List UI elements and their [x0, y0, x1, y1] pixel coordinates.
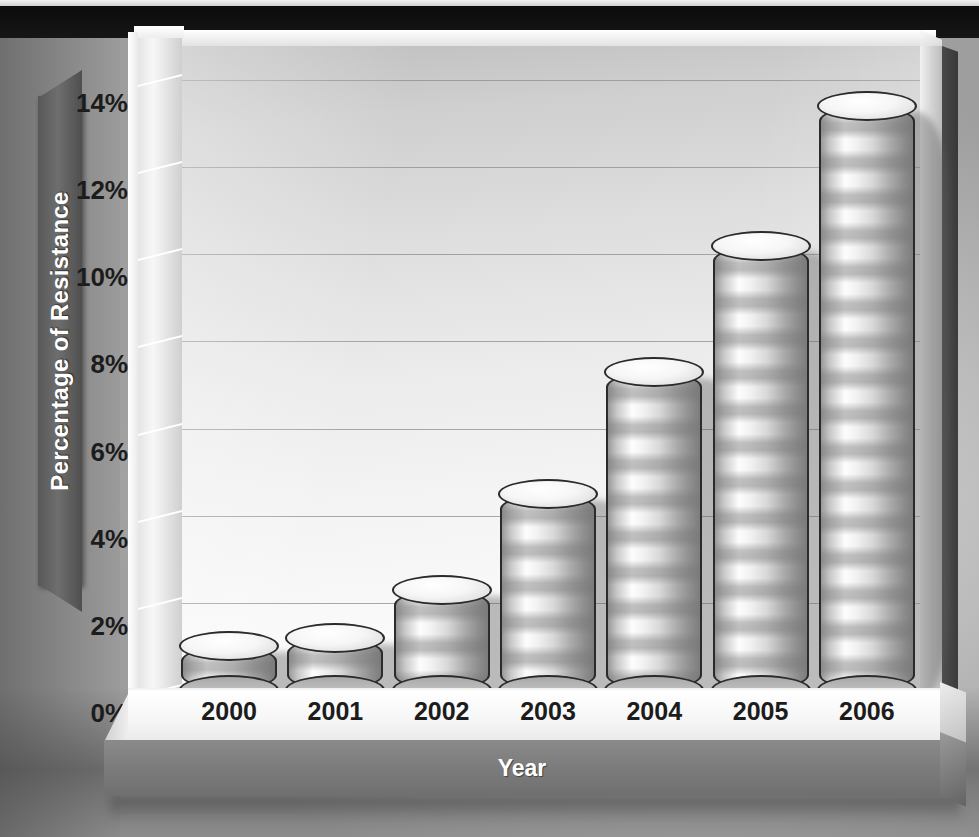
bar-2004[interactable]: [606, 372, 702, 690]
bar-cylinder-cap: [498, 479, 598, 509]
bar-cylinder-cap: [392, 575, 492, 605]
bar-2005[interactable]: [713, 246, 809, 690]
x-axis-tick-label: 2002: [387, 697, 497, 726]
x-axis-tick-label: 2000: [174, 697, 284, 726]
x-axis-tick-labels: 2000200120022003200420052006: [176, 697, 936, 741]
x-axis-tick-label: 2003: [493, 697, 603, 726]
bar-2000[interactable]: [181, 646, 277, 690]
bar-cylinder-body: [500, 494, 596, 690]
bar-cylinder-cap: [604, 357, 704, 387]
bar-cylinder-cap: [711, 231, 811, 261]
bar-2001[interactable]: [287, 638, 383, 690]
bar-2002[interactable]: [394, 590, 490, 690]
bar-cylinder-cap: [285, 623, 385, 653]
x-axis-tick-label: 2006: [812, 697, 922, 726]
x-axis-band-shadow: [110, 796, 960, 822]
x-axis-band-right-bevel: [940, 732, 966, 807]
bar-cylinder-cap: [817, 91, 917, 121]
bar-cylinder-body: [713, 246, 809, 690]
x-axis-title: Year: [104, 740, 940, 796]
bar-cylinder-body: [819, 106, 915, 690]
bar-2003[interactable]: [500, 494, 596, 690]
bar-2006[interactable]: [819, 106, 915, 690]
chart-scene: Percentage of Resistance 0%2%4%6%8%10%12…: [0, 0, 979, 837]
x-axis-title-band: Year: [104, 740, 940, 796]
x-axis-tick-label: 2005: [706, 697, 816, 726]
x-axis-tick-label: 2001: [280, 697, 390, 726]
x-axis-tick-label: 2004: [599, 697, 709, 726]
bar-cylinder-body: [606, 372, 702, 690]
